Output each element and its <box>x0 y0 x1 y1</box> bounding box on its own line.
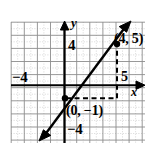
x-tick-label-negative-4: −4 <box>12 70 28 85</box>
line-arrow-lower <box>39 130 51 141</box>
x-axis-label: x <box>131 86 137 98</box>
y-tick-label-negative-4: −4 <box>67 122 83 137</box>
point-0-minus1 <box>62 95 68 101</box>
y-tick-label-4: 4 <box>68 38 75 53</box>
point-label-lower: (0, −1) <box>66 104 103 118</box>
coordinate-plane-figure: y x 4 −4 −4 5 (4, 5) (0, −1) <box>0 0 151 155</box>
y-axis-label: y <box>71 16 77 29</box>
point-label-upper: (4, 5) <box>114 32 143 46</box>
run-label-5: 5 <box>121 70 128 84</box>
